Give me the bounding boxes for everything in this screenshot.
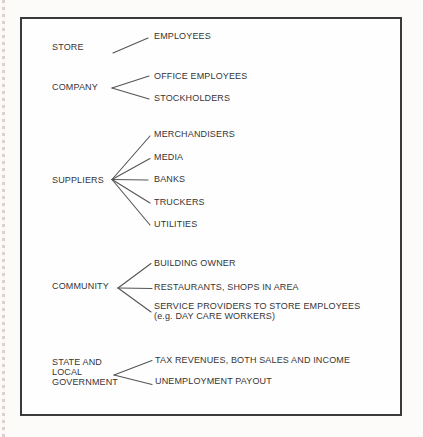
item-office-employees: OFFICE EMPLOYEES [154,71,247,81]
item-stockholders: STOCKHOLDERS [154,93,230,103]
group-label-community: COMMUNITY [52,281,109,291]
item-banks: BANKS [154,174,185,184]
group-label-state-local-government: STATE AND LOCAL GOVERNMENT [52,357,118,387]
item-unemployment-payout: UNEMPLOYMENT PAYOUT [155,376,272,386]
item-media: MEDIA [154,152,183,162]
group-label-suppliers: SUPPLIERS [52,175,104,185]
item-utilities: UTILITIES [154,219,197,229]
item-employees: EMPLOYEES [154,31,211,41]
item-truckers: TRUCKERS [154,197,205,207]
item-building-owner: BUILDING OWNER [154,258,236,268]
group-label-store: STORE [52,42,84,52]
item-restaurants-shops: RESTAURANTS, SHOPS IN AREA [154,282,299,292]
scanned-page: { "diagram": { "description": "Stakehold… [0,0,423,437]
group-label-company: COMPANY [52,82,98,92]
item-tax-revenues: TAX REVENUES, BOTH SALES AND INCOME [155,355,350,365]
item-service-providers: SERVICE PROVIDERS TO STORE EMPLOYEES (e.… [154,301,360,321]
item-merchandisers: MERCHANDISERS [154,129,235,139]
page-edge-artifact [2,0,5,437]
